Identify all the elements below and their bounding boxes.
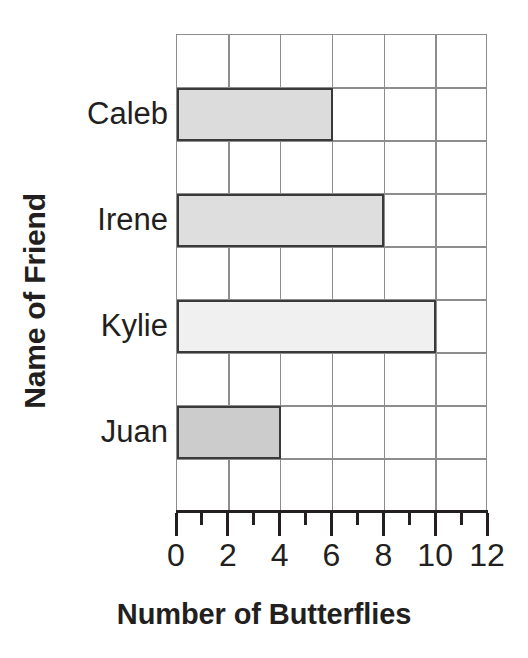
y-axis-tick-label: Caleb	[87, 87, 168, 140]
bars-layer	[177, 35, 486, 510]
bar	[177, 406, 281, 459]
bar-chart: Name of Friend CalebIreneKylieJuan 02468…	[0, 0, 528, 658]
x-axis-tick-major	[175, 513, 178, 536]
bar	[177, 88, 333, 141]
x-axis-tick-minor	[356, 513, 359, 525]
bar	[177, 300, 436, 353]
plot-area	[176, 34, 487, 511]
x-axis-tick-minor	[252, 513, 255, 525]
x-axis-tick-major	[434, 513, 437, 536]
x-axis-tick-minor	[304, 513, 307, 525]
x-axis-tick-minor	[408, 513, 411, 525]
x-axis-tick-major	[226, 513, 229, 536]
y-axis-tick-label: Irene	[97, 193, 168, 246]
y-axis-tick-label: Kylie	[101, 299, 168, 352]
x-axis-tick-minor	[200, 513, 203, 525]
x-axis-tick-label: 12	[457, 539, 517, 571]
x-axis-tick-major	[486, 513, 489, 536]
x-axis-tick-minor	[460, 513, 463, 525]
y-axis-tick-labels: CalebIreneKylieJuan	[40, 34, 172, 511]
bar	[177, 194, 384, 247]
x-axis-title: Number of Butterflies	[0, 598, 528, 631]
x-axis-tick-major	[382, 513, 385, 536]
y-axis-tick-label: Juan	[101, 405, 168, 458]
x-axis-tick-major	[278, 513, 281, 536]
x-axis-tick-major	[330, 513, 333, 536]
